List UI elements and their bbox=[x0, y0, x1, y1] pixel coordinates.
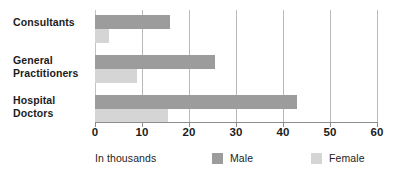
category-label-line: Doctors bbox=[13, 107, 95, 120]
bar-general-practitioners-male bbox=[95, 55, 215, 69]
legend-label-male: Male bbox=[230, 152, 253, 164]
legend-item-male: Male bbox=[212, 152, 253, 164]
x-axis-title: In thousands bbox=[95, 152, 156, 164]
legend-label-female: Female bbox=[329, 152, 365, 164]
category-label-line: General bbox=[13, 54, 95, 67]
category-label-general-practitioners: General Practitioners bbox=[13, 54, 95, 79]
bar-hospital-doctors-female bbox=[95, 109, 168, 123]
bar-chart: Consultants General Practitioners Hospit… bbox=[0, 0, 401, 183]
gridline bbox=[330, 10, 331, 122]
female-swatch-icon bbox=[311, 153, 322, 164]
tick-label-20: 20 bbox=[169, 126, 209, 138]
category-label-consultants: Consultants bbox=[13, 16, 95, 29]
male-swatch-icon bbox=[212, 153, 223, 164]
tick-label-40: 40 bbox=[263, 126, 303, 138]
category-label-line: Consultants bbox=[13, 16, 95, 29]
bar-hospital-doctors-male bbox=[95, 95, 297, 109]
bar-general-practitioners-female bbox=[95, 69, 137, 83]
bar-consultants-female bbox=[95, 29, 109, 43]
tick-label-30: 30 bbox=[216, 126, 256, 138]
legend-item-female: Female bbox=[311, 152, 365, 164]
tick-label-10: 10 bbox=[122, 126, 162, 138]
tick-label-50: 50 bbox=[310, 126, 350, 138]
category-label-line: Hospital bbox=[13, 94, 95, 107]
category-label-line: Practitioners bbox=[13, 67, 95, 80]
plot-area bbox=[95, 10, 377, 122]
tick-label-60: 60 bbox=[357, 126, 397, 138]
category-label-hospital-doctors: Hospital Doctors bbox=[13, 94, 95, 119]
gridline bbox=[377, 10, 378, 122]
bar-consultants-male bbox=[95, 15, 170, 29]
tick-label-0: 0 bbox=[75, 126, 115, 138]
